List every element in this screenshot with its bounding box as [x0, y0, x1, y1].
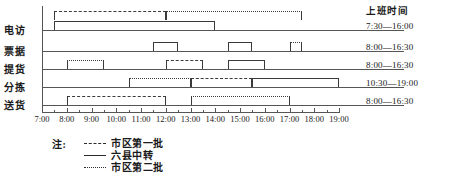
task-bar[interactable] — [290, 42, 302, 51]
x-tick — [54, 110, 55, 113]
shift-time-1: 8:00—16:30 — [366, 43, 414, 52]
x-tick — [228, 110, 229, 113]
x-tick — [116, 108, 117, 113]
task-bar[interactable] — [153, 42, 178, 51]
task-bar[interactable] — [191, 78, 253, 87]
x-tick — [277, 110, 278, 113]
row-baseline-2 — [42, 69, 404, 70]
task-bar[interactable] — [228, 60, 265, 69]
x-tick — [252, 110, 253, 113]
row-label-0: 电访 — [4, 26, 38, 36]
x-tick-label-7: 14:00 — [206, 115, 225, 124]
x-tick — [339, 108, 340, 113]
row-label-3: 分拣 — [4, 83, 38, 93]
x-tick — [302, 110, 303, 113]
task-bar[interactable] — [228, 42, 253, 51]
x-tick-label-6: 13:00 — [181, 115, 200, 124]
task-bar[interactable] — [129, 78, 191, 87]
x-tick — [290, 108, 291, 113]
x-tick-label-11: 18:00 — [305, 115, 324, 124]
x-tick-label-1: 8:00 — [59, 115, 74, 124]
x-tick — [327, 110, 328, 113]
x-tick-label-3: 10:00 — [107, 115, 126, 124]
x-tick-label-10: 17:00 — [280, 115, 299, 124]
x-tick — [129, 110, 130, 113]
shift-time-2: 8:00—16:30 — [366, 61, 414, 70]
x-tick — [166, 108, 167, 113]
x-tick — [215, 108, 216, 113]
row-label-4: 送货 — [4, 101, 38, 111]
x-tick-label-2: 9:00 — [84, 115, 99, 124]
legend-entry-1: 六县中转 — [84, 145, 153, 157]
legend-swatch-dashed — [84, 143, 106, 144]
shift-time-3: 10:30—19:00 — [366, 79, 418, 88]
x-tick-label-12: 19:00 — [329, 115, 348, 124]
task-bar[interactable] — [166, 11, 302, 20]
legend-note-label: 注: — [52, 136, 66, 151]
x-tick — [191, 108, 192, 113]
x-tick — [67, 108, 68, 113]
x-tick — [240, 108, 241, 113]
task-bar[interactable] — [191, 96, 290, 105]
row-baseline-3 — [42, 87, 404, 88]
x-tick — [141, 108, 142, 113]
row-label-1: 票据 — [4, 47, 38, 57]
task-bar[interactable] — [67, 60, 104, 69]
task-bar[interactable] — [166, 60, 203, 69]
x-tick — [153, 110, 154, 113]
shift-column-header: 上班时间 — [366, 3, 408, 17]
x-tick-label-8: 15:00 — [230, 115, 249, 124]
legend-swatch-dotted — [84, 167, 106, 168]
shift-time-0: 7:30—16:00 — [366, 22, 414, 31]
legend-entry-2: 市区第二批 — [84, 157, 164, 169]
row-baseline-0 — [42, 30, 404, 31]
shift-time-4: 8:00—16:30 — [366, 97, 414, 106]
row-baseline-1 — [42, 51, 404, 52]
x-tick — [178, 110, 179, 113]
row-baseline-4 — [42, 105, 404, 106]
x-tick-label-5: 12:00 — [156, 115, 175, 124]
legend-entry-0: 市区第一批 — [84, 133, 164, 145]
x-tick — [314, 108, 315, 113]
x-tick — [79, 110, 80, 113]
x-tick — [104, 110, 105, 113]
row-label-2: 提货 — [4, 65, 38, 75]
y-axis — [42, 6, 43, 112]
gantt-chart: 电访票据提货分拣送货 7:008:009:0010:0011:0012:0013… — [0, 0, 450, 175]
x-tick — [203, 110, 204, 113]
task-bar[interactable] — [67, 96, 166, 105]
task-bar[interactable] — [54, 11, 165, 20]
x-tick-label-4: 11:00 — [131, 115, 150, 124]
legend-swatch-solid — [84, 155, 106, 156]
task-bar[interactable] — [54, 21, 215, 30]
x-tick-label-9: 16:00 — [255, 115, 274, 124]
x-tick — [42, 108, 43, 113]
x-tick — [265, 108, 266, 113]
x-tick-label-0: 7:00 — [34, 115, 49, 124]
x-tick — [92, 108, 93, 113]
task-bar[interactable] — [252, 78, 339, 87]
legend-label-2: 市区第二批 — [111, 162, 164, 173]
